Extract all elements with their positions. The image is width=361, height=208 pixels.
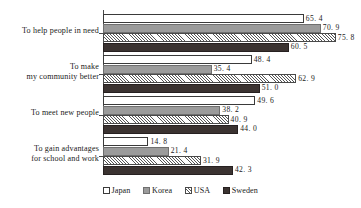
axis-tick (99, 74, 103, 75)
bar-korea[interactable] (103, 147, 169, 156)
legend-item-usa[interactable]: USA (185, 186, 210, 195)
bar-value-label: 51. 0 (262, 83, 279, 93)
legend-swatch-usa-icon (185, 187, 192, 194)
legend-item-korea[interactable]: Korea (143, 186, 172, 195)
axis-tick (99, 115, 103, 116)
bar-japan[interactable] (103, 14, 304, 23)
bar-value-label: 60. 5 (291, 42, 308, 52)
bar-value-label: 49. 6 (257, 96, 274, 106)
bar-sweden[interactable] (103, 43, 289, 52)
legend-swatch-japan-icon (103, 187, 110, 194)
bar-sweden[interactable] (103, 125, 238, 134)
bar-japan[interactable] (103, 137, 148, 146)
bar-usa[interactable] (103, 33, 336, 42)
bar-usa[interactable] (103, 115, 229, 124)
bar-value-label: 35. 4 (214, 64, 231, 74)
bar-sweden[interactable] (103, 84, 260, 93)
bar-value-label: 42. 3 (235, 165, 252, 175)
category-label: To meet new people (0, 108, 99, 118)
legend-label: Sweden (232, 186, 258, 195)
bar-value-label: 75. 8 (338, 33, 355, 43)
bar-korea[interactable] (103, 24, 321, 33)
legend-label: Japan (112, 186, 131, 195)
category-label: To gain advantages for school and work (0, 144, 99, 164)
axis-tick (99, 156, 103, 157)
legend-swatch-sweden-icon (223, 187, 230, 194)
bar-korea[interactable] (103, 106, 220, 115)
axis-tick (99, 33, 103, 34)
legend-label: USA (194, 186, 211, 195)
bar-japan[interactable] (103, 96, 255, 105)
bar-value-label: 44. 0 (240, 124, 257, 134)
bar-sweden[interactable] (103, 166, 233, 175)
bar-value-label: 14. 8 (150, 137, 167, 147)
bar-value-label: 31. 9 (203, 156, 220, 166)
bar-japan[interactable] (103, 55, 252, 64)
category-label: To help people in need (0, 26, 99, 36)
bar-chart: To help people in need65. 470. 975. 860.… (0, 0, 361, 208)
bar-value-label: 38. 2 (222, 105, 239, 115)
category-label: To make my community better (0, 62, 99, 82)
bar-value-label: 65. 4 (306, 14, 323, 24)
legend-swatch-korea-icon (143, 187, 150, 194)
bar-value-label: 40. 9 (231, 115, 248, 125)
bar-value-label: 62. 9 (298, 74, 315, 84)
bar-usa[interactable] (103, 74, 296, 83)
bar-usa[interactable] (103, 156, 201, 165)
legend-item-sweden[interactable]: Sweden (223, 186, 258, 195)
bar-value-label: 48. 4 (254, 55, 271, 65)
plot-area: To help people in need65. 470. 975. 860.… (103, 10, 361, 174)
legend-item-japan[interactable]: Japan (103, 186, 130, 195)
bar-korea[interactable] (103, 65, 212, 74)
chart-legend: JapanKoreaUSASweden (0, 186, 361, 195)
bar-value-label: 21. 4 (171, 146, 188, 156)
bar-value-label: 70. 9 (323, 23, 340, 33)
legend-label: Korea (152, 186, 172, 195)
